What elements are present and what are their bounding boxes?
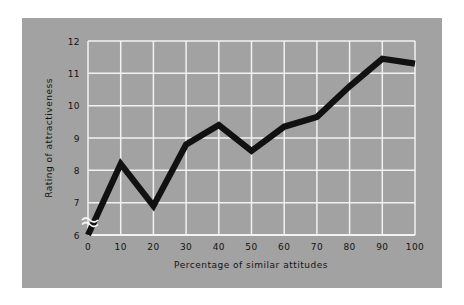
y-axis-title: Rating of attractiveness [44, 78, 54, 198]
line-chart: 6789101112 0102030405060708090100 Percen… [0, 0, 464, 305]
x-axis-tick-label: 20 [147, 242, 159, 252]
x-axis-tick-label: 70 [311, 242, 323, 252]
x-axis-tick-labels: 0102030405060708090100 [85, 242, 424, 252]
y-axis-tick-label: 9 [74, 134, 80, 144]
x-axis-tick-label: 30 [180, 242, 192, 252]
y-axis-tick-label: 11 [68, 69, 80, 79]
figure-container: 6789101112 0102030405060708090100 Percen… [0, 0, 464, 305]
y-axis-tick-labels: 6789101112 [68, 37, 80, 241]
x-axis-tick-label: 80 [343, 242, 355, 252]
y-axis-tick-label: 12 [68, 37, 80, 47]
x-axis-tick-label: 10 [115, 242, 127, 252]
y-axis-tick-label: 10 [68, 101, 80, 111]
x-axis-title: Percentage of similar attitudes [174, 260, 328, 270]
x-axis-tick-label: 100 [406, 242, 424, 252]
x-axis-tick-label: 90 [376, 242, 388, 252]
y-axis-tick-label: 6 [74, 231, 80, 241]
x-axis-tick-label: 60 [278, 242, 290, 252]
y-axis-tick-label: 7 [74, 198, 80, 208]
x-axis-tick-label: 40 [213, 242, 225, 252]
x-axis-tick-label: 0 [85, 242, 91, 252]
x-axis-tick-label: 50 [245, 242, 257, 252]
y-axis-tick-label: 8 [74, 166, 80, 176]
